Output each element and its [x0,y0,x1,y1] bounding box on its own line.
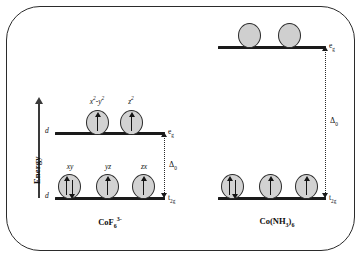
cof6-orbital-x2y2 [86,110,109,135]
conh3-orbital-t2g-2 [259,174,282,199]
cof6-t2g-term-sub: 2g [170,198,175,204]
cof6-delta-label: Δ0 [169,160,177,171]
cof6-t2g-d-label: d [45,191,49,200]
conh3-formula-text: Co(NH [260,216,286,226]
crystal-field-splitting-figure: Energy d eg x2-y2 z2 d t2g xy yz zx Δ0 [0,0,364,259]
cof6-orbital-label-xy: xy [55,162,85,171]
cof6-orbital-z2 [120,110,143,135]
conh3-formula-sub2: 6 [291,222,294,228]
cof6-delta-sub: 0 [174,165,177,171]
cof6-delta-arrow-top [161,132,167,137]
cof6-orbital-xy [58,174,81,199]
cof6-orbital-label-z2: z2 [108,95,154,106]
spin-up-arrow [66,180,67,195]
spin-up-arrow [143,180,144,195]
conh3-orbital-t2g-1 [221,174,244,199]
cof6-formula-sub: 6 [114,223,117,229]
conh3-eg-term-sub: g [332,46,335,52]
conh3-delta-sub: 0 [335,121,338,127]
cof6-orbital-label-yz: yz [93,162,123,171]
spin-up-arrow [97,116,98,131]
conh3-delta-arrow-top [322,46,328,51]
cof6-orbital-label-zx: zx [129,162,159,171]
cof6-t2g-term-label: t2g [168,193,175,204]
spin-up-arrow [229,180,230,195]
conh3-orbital-t2g-3 [295,174,318,199]
conh3-orbital-eg-1 [238,23,261,48]
conh3-delta-dotted-line [325,49,326,197]
spin-down-arrow [72,180,73,195]
cof6-formula-sup: 3- [117,216,122,222]
cof6-delta-dotted-line [164,135,165,197]
cof6-orbital-yz [96,174,119,199]
cof6-formula: CoF63- [70,216,150,229]
spin-down-arrow [235,180,236,195]
conh3-delta-arrow-bottom [322,193,328,198]
cof6-formula-text: CoF [98,217,114,227]
conh3-t2g-term-label: t2g [329,193,336,204]
conh3-eg-level-bar [218,46,326,49]
cof6-eg-term-sub: g [171,132,174,138]
conh3-formula: Co(NH3)6 [232,216,322,228]
cof6-orbital-zx [132,174,155,199]
spin-up-arrow [306,180,307,195]
energy-axis-label: Energy [32,156,42,184]
cof6-eg-level-bar [55,132,165,135]
conh3-orbital-eg-2 [278,23,301,48]
conh3-t2g-term-sub: 2g [331,198,336,204]
conh3-eg-term-label: eg [329,41,335,52]
figure-border [6,6,355,251]
conh3-delta-label: Δ0 [330,116,338,127]
cof6-eg-term-label: eg [168,127,174,138]
spin-up-arrow [131,116,132,131]
energy-axis-arrowhead [35,97,43,104]
spin-up-arrow [270,180,271,195]
spin-up-arrow [107,180,108,195]
cof6-eg-d-label: d [45,126,49,135]
cof6-delta-arrow-bottom [161,193,167,198]
